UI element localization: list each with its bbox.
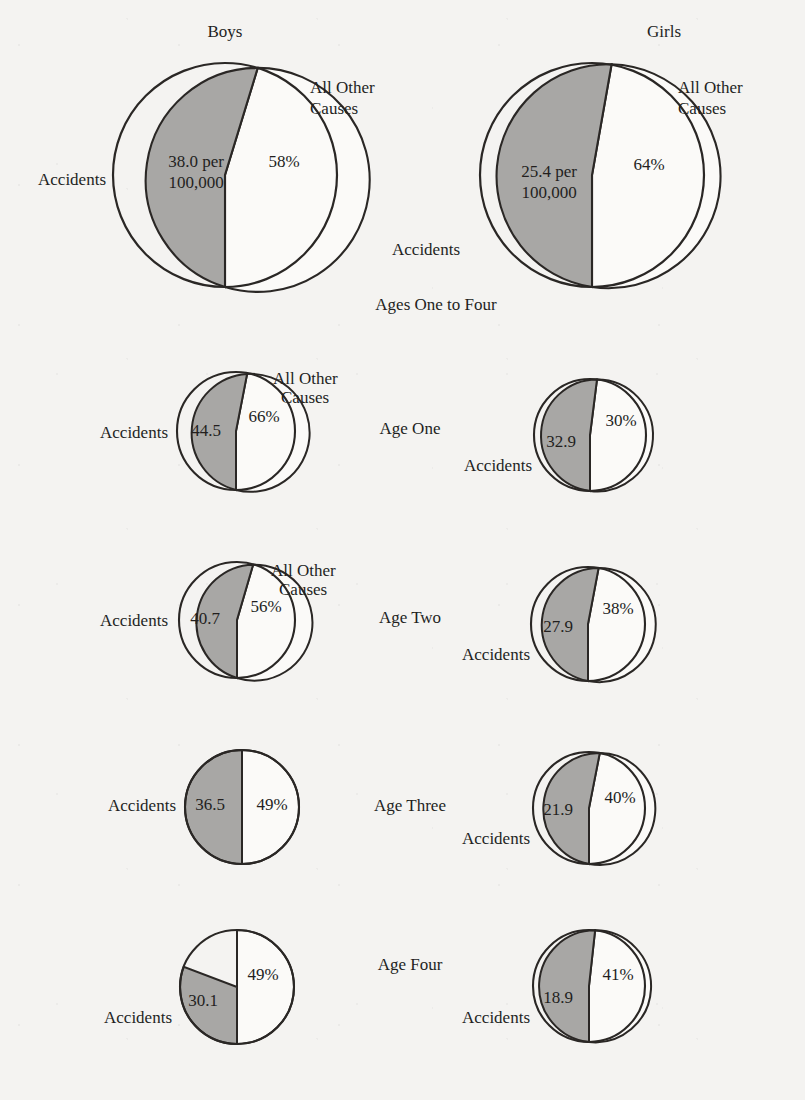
value-accidents-rate: 32.9 [528,433,594,452]
pie-girls-total[interactable]: 25.4 per 100,000 64% [480,63,704,287]
slice-other-causes[interactable] [590,379,653,491]
label-accidents-girls-age-four: Accidents [398,1008,530,1027]
pie-girls-age-two[interactable]: 27.9 38% [531,567,645,681]
pie-girls-age-four-svg [533,930,645,1042]
section-label-ages-one-to-four: Ages One to Four [336,295,536,314]
pie-boys-age-four-svg [180,930,294,1044]
pie-boys-age-four[interactable]: 30.1 49% [180,930,294,1044]
slice-other-causes[interactable] [589,930,651,1042]
label-accidents-boys-age-one: Accidents [48,423,168,442]
pie-boys-age-three[interactable]: 36.5 49% [185,750,299,864]
value-other-percent: 41% [587,966,649,985]
pie-girls-age-one[interactable]: 32.9 30% [534,379,646,491]
row-label-age-four: Age Four [340,955,480,974]
label-other-causes-boys-age-two-line2: Causes [279,580,399,599]
value-other-percent: 49% [232,966,294,985]
label-other-causes-boys-total-line1: All Other [310,78,430,97]
value-accidents-rate-line1: 25.4 per [486,163,612,182]
row-label-age-one: Age One [340,419,480,438]
value-other-percent: 58% [249,153,319,172]
label-accidents-girls-age-three: Accidents [398,829,530,848]
label-other-causes-boys-age-one-line1: All Other [273,369,393,388]
value-accidents-rate: 27.9 [525,618,591,637]
label-accidents-girls-age-two: Accidents [398,645,530,664]
value-other-percent: 49% [241,796,303,815]
value-other-percent: 56% [235,598,297,617]
label-accidents-boys-total: Accidents [0,170,106,189]
value-other-percent: 64% [614,156,684,175]
value-accidents-rate: 30.1 [170,992,236,1011]
pie-girls-age-three[interactable]: 21.9 40% [533,752,645,864]
label-other-causes-girls-total-line1: All Other [678,78,798,97]
label-accidents-girls-age-one: Accidents [400,456,532,475]
value-other-percent: 38% [587,600,649,619]
column-header-boys: Boys [165,22,285,41]
value-other-percent: 66% [233,408,295,427]
column-header-girls: Girls [604,22,724,41]
value-other-percent: 30% [590,412,652,431]
value-other-percent: 40% [589,789,651,808]
label-other-causes-boys-age-two-line1: All Other [271,561,391,580]
row-label-age-three: Age Three [335,796,485,815]
slice-other-causes[interactable] [237,930,294,1044]
value-accidents-rate: 36.5 [177,796,243,815]
value-accidents-rate: 40.7 [172,610,238,629]
label-other-causes-boys-total-line2: Causes [310,99,430,118]
value-accidents-rate-line1: 38.0 per [131,153,261,172]
label-other-causes-boys-age-one-line2: Causes [281,388,401,407]
label-accidents-girls-total: Accidents [300,240,460,259]
row-label-age-two: Age Two [340,608,480,627]
value-accidents-rate-line2: 100,000 [131,174,261,193]
label-accidents-boys-age-four: Accidents [40,1008,172,1027]
label-other-causes-girls-total-line2: Causes [678,99,798,118]
pie-boys-age-one[interactable]: 44.5 66% [177,372,295,490]
value-accidents-rate: 44.5 [173,422,239,441]
label-accidents-boys-age-two: Accidents [48,611,168,630]
value-accidents-rate: 18.9 [525,989,591,1008]
pie-girls-age-four[interactable]: 18.9 41% [533,930,645,1042]
value-accidents-rate-line2: 100,000 [486,184,612,203]
value-accidents-rate: 21.9 [525,801,591,820]
label-accidents-boys-age-three: Accidents [48,796,176,815]
